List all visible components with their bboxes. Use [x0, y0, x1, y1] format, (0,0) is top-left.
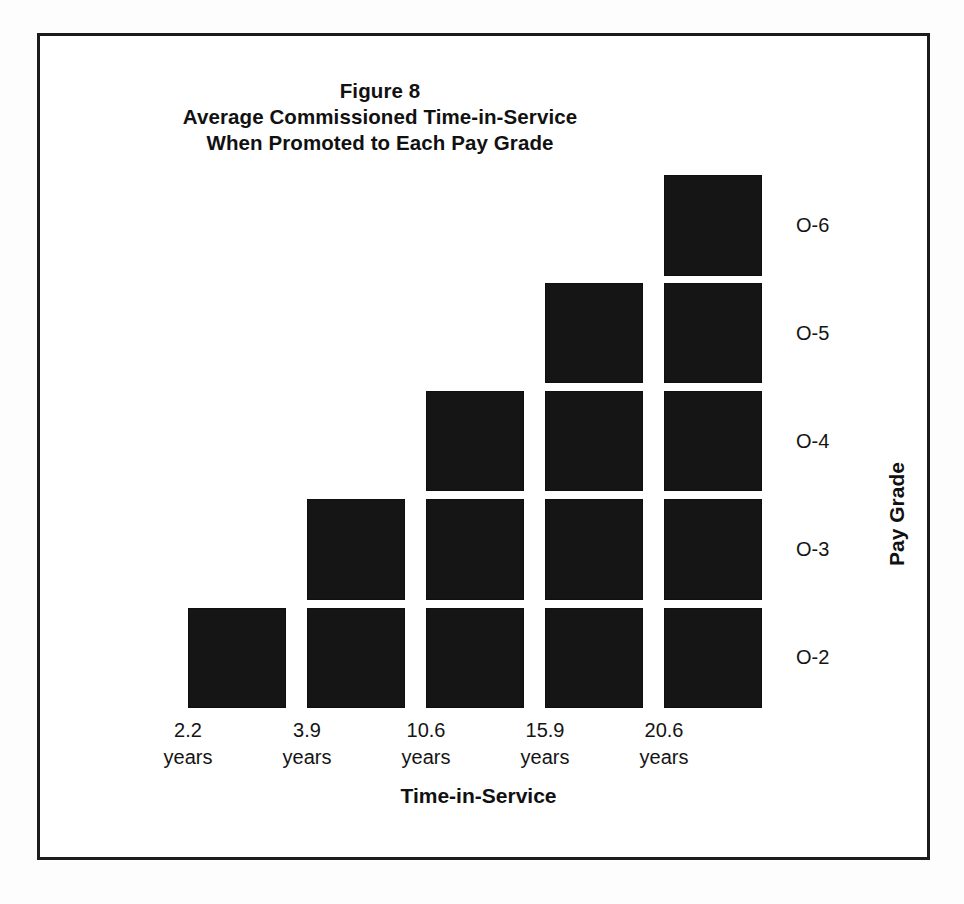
plot-area — [188, 175, 781, 710]
block-col4-o5 — [545, 283, 643, 383]
x-axis-title-container: Time-in-Service — [40, 784, 933, 808]
block-col5-o4 — [664, 391, 762, 491]
block-col5-o3 — [664, 499, 762, 600]
block-col3-o2 — [426, 608, 524, 708]
xtick-4-value: 15.9 — [485, 717, 605, 744]
block-col2-o2 — [307, 608, 405, 708]
block-col2-o3 — [307, 499, 405, 600]
xtick-1-value: 2.2 — [128, 717, 248, 744]
y-axis-title: Pay Grade — [886, 462, 908, 566]
block-col4-o3 — [545, 499, 643, 600]
xtick-2-unit: years — [247, 744, 367, 771]
x-axis-title: Time-in-Service — [400, 784, 556, 807]
xtick-1: 2.2 years — [128, 717, 248, 771]
block-col3-o3 — [426, 499, 524, 600]
xtick-3: 10.6 years — [366, 717, 486, 771]
xtick-2-value: 3.9 — [247, 717, 367, 744]
figure-frame: Figure 8 Average Commissioned Time-in-Se… — [37, 33, 930, 860]
block-col4-o2 — [545, 608, 643, 708]
xtick-5-unit: years — [604, 744, 724, 771]
title-line-2: Average Commissioned Time-in-Service — [40, 104, 720, 130]
xtick-5-value: 20.6 — [604, 717, 724, 744]
xtick-3-value: 10.6 — [366, 717, 486, 744]
ytick-label-o5: O-5 — [796, 323, 866, 343]
xtick-5: 20.6 years — [604, 717, 724, 771]
block-col5-o6 — [664, 175, 762, 276]
xtick-4-unit: years — [485, 744, 605, 771]
ytick-label-o6: O-6 — [796, 215, 866, 235]
scanned-page: Figure 8 Average Commissioned Time-in-Se… — [0, 0, 964, 904]
xtick-2: 3.9 years — [247, 717, 367, 771]
ytick-label-o3: O-3 — [796, 539, 866, 559]
ytick-label-o4: O-4 — [796, 431, 866, 451]
xtick-1-unit: years — [128, 744, 248, 771]
block-col5-o5 — [664, 283, 762, 383]
block-col1-o2 — [188, 608, 286, 708]
block-col4-o4 — [545, 391, 643, 491]
ytick-label-o2: O-2 — [796, 647, 866, 667]
figure-title: Figure 8 Average Commissioned Time-in-Se… — [40, 78, 720, 156]
title-line-1: Figure 8 — [40, 78, 720, 104]
xtick-3-unit: years — [366, 744, 486, 771]
xtick-4: 15.9 years — [485, 717, 605, 771]
block-col5-o2 — [664, 608, 762, 708]
block-col3-o4 — [426, 391, 524, 491]
title-line-3: When Promoted to Each Pay Grade — [40, 130, 720, 156]
